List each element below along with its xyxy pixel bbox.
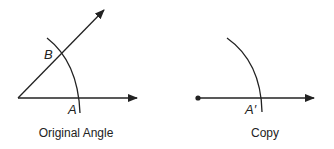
copy-figure — [195, 38, 314, 112]
caption-copy: Copy — [251, 127, 279, 139]
label-a-prime: A′ — [245, 103, 256, 116]
label-b: B — [44, 48, 53, 61]
copy-arc — [227, 38, 262, 112]
original-angle-figure — [18, 10, 137, 113]
label-a: A — [68, 103, 77, 116]
ray-ab-upper — [18, 10, 104, 98]
caption-original-angle: Original Angle — [39, 127, 114, 139]
